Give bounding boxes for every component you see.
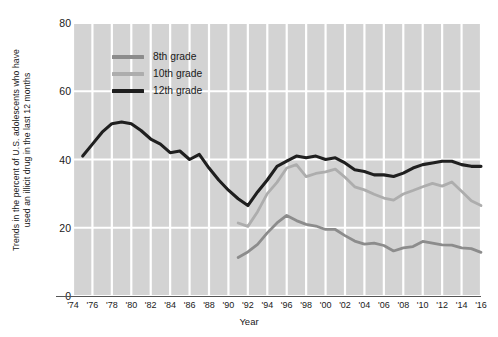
x-tick-label: '86 — [184, 300, 196, 310]
y-tick-label: 40 — [56, 154, 71, 166]
y-tick-label: 80 — [56, 17, 71, 29]
chart-legend: 8th grade10th grade12th grade — [112, 48, 272, 99]
y-tick-label: 60 — [56, 85, 71, 97]
legend-swatch-icon — [112, 89, 144, 93]
x-tick-label: '82 — [145, 300, 157, 310]
x-tick-label: '76 — [87, 300, 99, 310]
x-tick-label: '92 — [242, 300, 254, 310]
x-tick-label: '88 — [203, 300, 215, 310]
x-tick-label: '96 — [281, 300, 293, 310]
x-tick-label: '90 — [223, 300, 235, 310]
legend-item: 10th grade — [112, 65, 272, 82]
legend-swatch-icon — [112, 55, 144, 59]
x-tick-label: '80 — [125, 300, 137, 310]
y-tick-label: 20 — [56, 222, 71, 234]
series-line-8th-grade — [238, 215, 481, 257]
x-axis-title: Year — [0, 316, 498, 327]
x-tick-label: '84 — [164, 300, 176, 310]
x-tick-label: '78 — [106, 300, 118, 310]
x-tick-label: '02 — [339, 300, 351, 310]
x-tick-label: '06 — [378, 300, 390, 310]
x-tick-label: '16 — [475, 300, 487, 310]
x-tick-label: '04 — [359, 300, 371, 310]
legend-item-label: 12th grade — [153, 85, 202, 96]
legend-item-label: 10th grade — [153, 68, 202, 79]
legend-swatch-icon — [112, 72, 144, 76]
legend-item-label: 8th grade — [153, 51, 197, 62]
x-tick-label: '12 — [436, 300, 448, 310]
drug-use-trends-chart: Trends in the percent of U.S. adolescent… — [0, 0, 498, 337]
x-tick-label: '08 — [397, 300, 409, 310]
x-tick-label: '10 — [417, 300, 429, 310]
x-tick-label: '98 — [300, 300, 312, 310]
series-line-10th-grade — [238, 165, 481, 227]
x-tick-label: '74 — [67, 300, 79, 310]
x-tick-label: '14 — [456, 300, 468, 310]
series-line-12th-grade — [83, 122, 481, 206]
x-tick-label: '94 — [261, 300, 273, 310]
x-axis-line — [56, 296, 481, 297]
x-tick-label: '00 — [320, 300, 332, 310]
legend-item: 8th grade — [112, 48, 272, 65]
legend-item: 12th grade — [112, 82, 272, 99]
